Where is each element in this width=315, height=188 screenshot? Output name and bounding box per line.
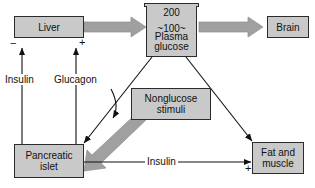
node-pancreatic-islet-line2: islet xyxy=(40,161,58,172)
sign-insulin-fat-muscle-plus: + xyxy=(245,163,251,174)
node-pancreatic-islet[interactable]: Pancreatic islet xyxy=(14,144,84,178)
beaker-label: Plasma glucose xyxy=(144,32,199,52)
beaker-label-line2: glucose xyxy=(144,42,199,52)
edge-label-insulin-liver: Insulin xyxy=(3,74,36,85)
node-fat-and-muscle[interactable]: Fat and muscle xyxy=(252,142,304,174)
node-pancreatic-islet-line1: Pancreatic xyxy=(25,150,72,161)
node-nonglucose-stimuli[interactable]: Nonglucose stimuli xyxy=(131,88,211,120)
node-liver[interactable]: Liver xyxy=(14,16,84,38)
node-liver-label: Liver xyxy=(38,22,60,33)
sign-glucagon-liver-plus: + xyxy=(79,37,85,48)
thick-arrow-glucose-to-brain xyxy=(199,17,263,37)
edge-label-glucagon-liver: Glucagon xyxy=(52,74,99,85)
node-fat-and-muscle-line2: muscle xyxy=(262,158,294,169)
diagram-canvas: Liver Brain 200 ~100~ Plasma glucose Non… xyxy=(0,0,315,188)
node-plasma-glucose[interactable]: 200 ~100~ Plasma glucose xyxy=(144,3,199,57)
node-nonglucose-stimuli-line2: stimuli xyxy=(157,104,185,115)
thick-arrow-liver-to-glucose xyxy=(84,17,146,37)
node-fat-and-muscle-line1: Fat and xyxy=(261,147,295,158)
sign-insulin-liver-minus: − xyxy=(10,38,16,49)
edge-label-insulin-fat-muscle: Insulin xyxy=(145,156,178,167)
beaker-top-value: 200 xyxy=(144,7,199,18)
node-brain[interactable]: Brain xyxy=(267,16,309,38)
node-nonglucose-stimuli-line1: Nonglucose xyxy=(145,93,198,104)
node-brain-label: Brain xyxy=(276,22,299,33)
